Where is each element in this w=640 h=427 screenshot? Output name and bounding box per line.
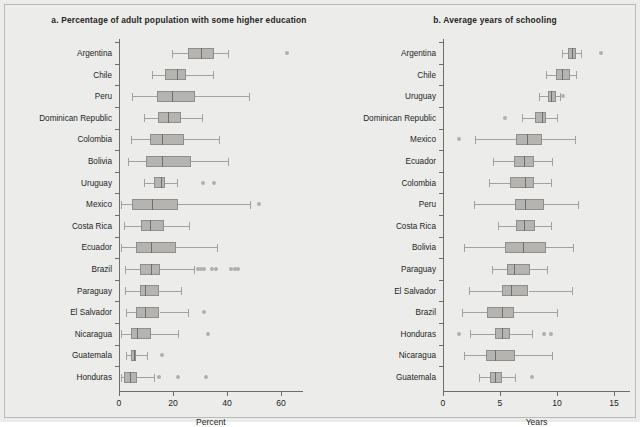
outlier-point bbox=[202, 310, 206, 314]
box-iqr bbox=[150, 134, 185, 145]
category-label: El Salvador bbox=[330, 286, 436, 295]
box-iqr bbox=[507, 264, 530, 275]
whisker-cap-upper bbox=[515, 374, 516, 382]
whisker-lower bbox=[121, 334, 131, 335]
y-tick-mark bbox=[439, 64, 443, 65]
category-label: Chile bbox=[330, 70, 436, 79]
whisker-lower bbox=[470, 334, 495, 335]
y-tick-mark bbox=[439, 345, 443, 346]
outlier-point bbox=[599, 51, 603, 55]
whisker-cap-lower bbox=[498, 222, 499, 230]
panel-a-title: a. Percentage of adult population with s… bbox=[14, 15, 344, 25]
x-tick-label: 0 bbox=[441, 398, 446, 408]
whisker-cap-lower bbox=[469, 287, 470, 295]
median-line bbox=[151, 264, 152, 275]
whisker-cap-upper bbox=[189, 222, 190, 230]
whisker-cap-lower bbox=[489, 179, 490, 187]
whisker-cap-lower bbox=[131, 136, 132, 144]
box-iqr bbox=[486, 350, 515, 361]
whisker-cap-upper bbox=[573, 244, 574, 252]
category-label: Bolivia bbox=[0, 157, 112, 166]
whisker-lower bbox=[128, 161, 146, 162]
whisker-lower bbox=[522, 118, 536, 119]
whisker-upper bbox=[546, 247, 573, 248]
x-tick-label: 20 bbox=[168, 398, 178, 408]
median-line bbox=[502, 328, 503, 339]
category-label: Nicaragua bbox=[330, 351, 436, 360]
whisker-cap-lower bbox=[121, 330, 122, 338]
whisker-cap-upper bbox=[188, 309, 189, 317]
whisker-cap-upper bbox=[194, 266, 195, 274]
box-iqr bbox=[136, 307, 160, 318]
category-label: Colombia bbox=[330, 178, 436, 187]
y-tick-mark bbox=[439, 107, 443, 108]
y-tick-mark bbox=[439, 366, 443, 367]
whisker-lower bbox=[479, 377, 489, 378]
median-line bbox=[137, 328, 138, 339]
whisker-cap-upper bbox=[552, 352, 553, 360]
y-tick-mark bbox=[115, 64, 119, 65]
box-iqr bbox=[124, 372, 137, 383]
whisker-upper bbox=[160, 312, 188, 313]
whisker-cap-upper bbox=[547, 266, 548, 274]
whisker-upper bbox=[195, 96, 249, 97]
x-tick-label: 10 bbox=[552, 398, 562, 408]
y-tick-mark bbox=[115, 258, 119, 259]
whisker-cap-upper bbox=[228, 50, 229, 58]
whisker-cap-upper bbox=[581, 50, 582, 58]
whisker-lower bbox=[493, 161, 514, 162]
category-label: Honduras bbox=[0, 373, 112, 382]
box-iqr bbox=[132, 199, 178, 210]
x-tick-label: 5 bbox=[498, 398, 503, 408]
whisker-cap-lower bbox=[144, 114, 145, 122]
box-iqr bbox=[131, 328, 152, 339]
box-iqr bbox=[556, 69, 570, 80]
whisker-cap-upper bbox=[178, 330, 179, 338]
whisker-cap-upper bbox=[219, 136, 220, 144]
whisker-cap-lower bbox=[492, 266, 493, 274]
whisker-cap-upper bbox=[181, 287, 182, 295]
median-line bbox=[172, 91, 173, 102]
whisker-lower bbox=[121, 204, 132, 205]
whisker-cap-upper bbox=[532, 330, 533, 338]
x-tick-mark bbox=[119, 392, 120, 396]
whisker-lower bbox=[144, 183, 153, 184]
category-label: Bolivia bbox=[330, 243, 436, 252]
median-line bbox=[495, 372, 496, 383]
box-iqr bbox=[515, 199, 545, 210]
whisker-lower bbox=[475, 139, 516, 140]
median-line bbox=[523, 242, 524, 253]
whisker-cap-lower bbox=[546, 71, 547, 79]
median-line bbox=[502, 307, 503, 318]
whisker-cap-lower bbox=[464, 352, 465, 360]
category-label: El Salvador bbox=[0, 308, 112, 317]
x-tick-mark bbox=[614, 392, 615, 396]
whisker-cap-lower bbox=[562, 50, 563, 58]
whisker-cap-lower bbox=[464, 244, 465, 252]
y-tick-mark bbox=[115, 172, 119, 173]
box-iqr bbox=[510, 177, 534, 188]
whisker-upper bbox=[214, 53, 228, 54]
category-label: Dominican Republic bbox=[0, 113, 112, 122]
median-line bbox=[525, 177, 526, 188]
median-line bbox=[162, 134, 163, 145]
whisker-lower bbox=[464, 247, 505, 248]
whisker-cap-upper bbox=[249, 93, 250, 101]
x-tick-mark bbox=[227, 392, 228, 396]
category-label: Honduras bbox=[330, 329, 436, 338]
whisker-lower bbox=[172, 53, 188, 54]
median-line bbox=[162, 156, 163, 167]
whisker-lower bbox=[126, 312, 136, 313]
whisker-lower bbox=[124, 226, 141, 227]
x-tick-label: 40 bbox=[222, 398, 232, 408]
category-label: Peru bbox=[330, 200, 436, 209]
outlier-point bbox=[549, 332, 553, 336]
box-iqr bbox=[140, 264, 161, 275]
x-tick-mark bbox=[281, 392, 282, 396]
category-label: Brazil bbox=[0, 265, 112, 274]
median-line bbox=[130, 372, 131, 383]
whisker-cap-upper bbox=[552, 158, 553, 166]
category-label: Guatemala bbox=[0, 351, 112, 360]
whisker-upper bbox=[546, 118, 557, 119]
whisker-cap-upper bbox=[572, 287, 573, 295]
